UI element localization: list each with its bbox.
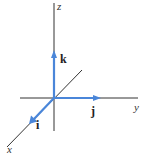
x-axis-label: x bbox=[6, 143, 12, 155]
arrowhead-j-icon bbox=[93, 95, 101, 101]
z-axis-label: z bbox=[56, 0, 62, 12]
unit-vector-i bbox=[29, 98, 54, 124]
arrowhead-k-icon bbox=[51, 50, 57, 58]
y-axis-label: y bbox=[133, 101, 139, 113]
vector-i-label: i bbox=[36, 118, 40, 132]
unit-vector-j bbox=[54, 95, 101, 101]
unit-vector-k bbox=[51, 50, 57, 98]
coordinate-axes-diagram: z y x k j i bbox=[0, 0, 156, 160]
vector-j-label: j bbox=[90, 104, 95, 118]
vector-k-label: k bbox=[60, 52, 67, 66]
